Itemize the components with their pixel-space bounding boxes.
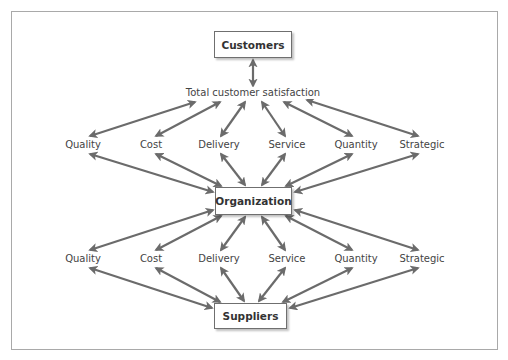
double-arrow (221, 102, 245, 136)
double-arrow (284, 102, 352, 136)
organization-box: Organization (215, 187, 292, 215)
lower-cost-label: Cost (138, 253, 164, 265)
double-arrow (283, 268, 352, 302)
double-arrow (90, 102, 195, 136)
upper-quality-label: Quality (63, 139, 103, 151)
upper-quantity-label: Quantity (332, 139, 379, 151)
total-customer-satisfaction-label: Total customer satisfaction (184, 87, 322, 99)
double-arrow (286, 216, 352, 250)
double-arrow (262, 154, 285, 185)
lower-strategic-label: Strategic (397, 253, 446, 265)
suppliers-label: Suppliers (223, 310, 279, 322)
lower-quantity-label: Quantity (332, 253, 379, 265)
upper-service-label: Service (267, 139, 308, 151)
lower-quality-label: Quality (63, 253, 103, 265)
double-arrow (286, 154, 352, 186)
double-arrow (221, 154, 245, 185)
double-arrow (221, 268, 244, 301)
double-arrow (156, 154, 221, 186)
double-arrow (259, 268, 285, 301)
lower-service-label: Service (267, 253, 308, 265)
double-arrow (156, 216, 221, 250)
double-arrow (262, 102, 285, 136)
upper-cost-label: Cost (138, 139, 164, 151)
lower-delivery-label: Delivery (196, 253, 242, 265)
upper-strategic-label: Strategic (397, 139, 446, 151)
double-arrow (156, 102, 220, 136)
double-arrow (307, 100, 418, 136)
suppliers-box: Suppliers (214, 303, 287, 329)
upper-delivery-label: Delivery (196, 139, 242, 151)
organization-label: Organization (215, 195, 291, 207)
customers-label: Customers (221, 39, 284, 51)
double-arrow (156, 268, 220, 302)
double-arrow (221, 217, 245, 250)
double-arrow (262, 217, 285, 250)
customers-box: Customers (214, 31, 292, 58)
